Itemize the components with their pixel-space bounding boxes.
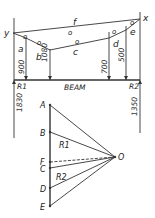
- point-d: D: [40, 185, 46, 194]
- beam-label: BEAM: [64, 83, 86, 92]
- point-e: E: [40, 203, 46, 212]
- vector-r1: R1: [59, 141, 70, 150]
- load-1080: 1080: [40, 43, 49, 62]
- load-700: 700: [100, 59, 109, 74]
- reaction-r1-label: R1: [17, 82, 27, 91]
- point-b: B: [40, 129, 46, 138]
- o-mark: o: [130, 19, 134, 27]
- load-900: 900: [17, 59, 26, 74]
- reaction-1830: 1830: [15, 93, 24, 112]
- pole-o: O: [118, 153, 124, 162]
- reaction-1350: 1350: [130, 97, 139, 116]
- ray-oc: [50, 157, 115, 168]
- label-x: x: [142, 13, 149, 23]
- o-mark: o: [75, 38, 79, 46]
- closing-line-f: [13, 19, 140, 33]
- funicular-force-diagram: y x f a b c d e o o o o o o 900 1080 700…: [0, 0, 155, 218]
- point-c: C: [40, 165, 46, 174]
- o-mark: o: [112, 28, 116, 36]
- point-a: A: [39, 101, 45, 110]
- space-e: e: [130, 27, 136, 37]
- vector-r2: R2: [56, 173, 67, 182]
- reaction-r2-label: R2: [129, 82, 139, 91]
- load-500: 500: [117, 47, 126, 62]
- label-y: y: [3, 28, 10, 38]
- o-mark: o: [68, 29, 72, 37]
- space-d: d: [113, 39, 119, 49]
- space-a: a: [18, 44, 24, 54]
- space-c: c: [73, 47, 78, 57]
- o-mark: o: [23, 33, 27, 41]
